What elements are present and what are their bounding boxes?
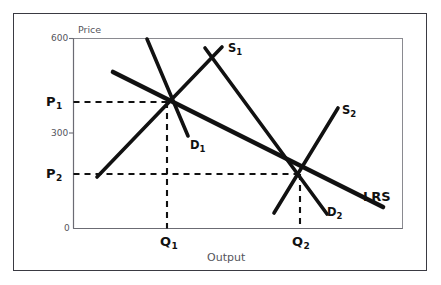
curve-label-d2: D2 (327, 205, 342, 219)
quantity-label-q1-subscript: 1 (171, 241, 178, 251)
quantity-label-q1: Q1 (160, 234, 178, 249)
curve-label-d1-text: D (190, 138, 200, 152)
quantity-label-q2-subscript: 2 (303, 241, 310, 251)
figure-screenshot: 600 300 0 Price Output P1 P2 Q1 Q2 S1 D1… (0, 0, 441, 285)
curve-label-d1-subscript: 1 (200, 144, 206, 154)
curve-label-s2-subscript: 2 (350, 109, 356, 119)
price-label-p1: P1 (46, 94, 62, 109)
curve-label-s2: S2 (342, 103, 356, 117)
curve-label-d1: D1 (190, 138, 205, 152)
quantity-label-q2: Q2 (292, 234, 310, 249)
curve-label-d2-text: D (327, 205, 337, 219)
curve-label-d2-subscript: 2 (337, 211, 343, 221)
quantity-label-q2-text: Q (292, 234, 303, 249)
curve-d2 (205, 48, 327, 214)
curve-label-s1: S1 (228, 41, 242, 55)
price-label-p1-text: P (46, 94, 56, 109)
price-label-p2-subscript: 2 (56, 173, 63, 183)
curve-lrs (113, 72, 383, 207)
y-axis-label-600: 600 (51, 33, 68, 43)
price-label-p1-subscript: 1 (56, 101, 63, 111)
curve-label-lrs: LRS (363, 189, 391, 204)
price-label-p2: P2 (46, 166, 62, 181)
y-axis-label-300: 300 (51, 128, 68, 138)
y-axis-title: Price (78, 24, 101, 35)
x-axis-title: Output (207, 251, 245, 264)
price-label-p2-text: P (46, 166, 56, 181)
quantity-label-q1-text: Q (160, 234, 171, 249)
curve-label-s1-subscript: 1 (236, 47, 242, 57)
curve-s2 (274, 108, 338, 213)
y-axis-label-0: 0 (64, 223, 70, 233)
